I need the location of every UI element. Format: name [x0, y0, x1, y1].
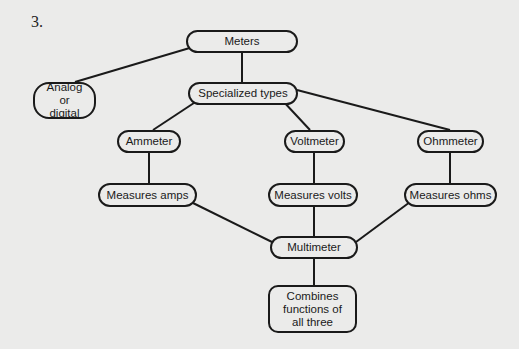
node-specialized-types: Specialized types [188, 82, 298, 105]
node-meters: Meters [186, 30, 298, 53]
node-analog-or-digital: Analog or digital [33, 82, 96, 119]
node-ohmmeter: Ohmmeter [417, 130, 484, 153]
node-measures-ohms: Measures ohms [404, 183, 497, 207]
node-measures-volts: Measures volts [268, 183, 358, 207]
node-ammeter: Ammeter [117, 130, 181, 153]
node-combines-functions: Combines functions of all three [268, 285, 357, 333]
node-voltmeter: Voltmeter [284, 130, 345, 153]
node-multimeter: Multimeter [270, 236, 358, 259]
node-measures-amps: Measures amps [98, 183, 197, 207]
